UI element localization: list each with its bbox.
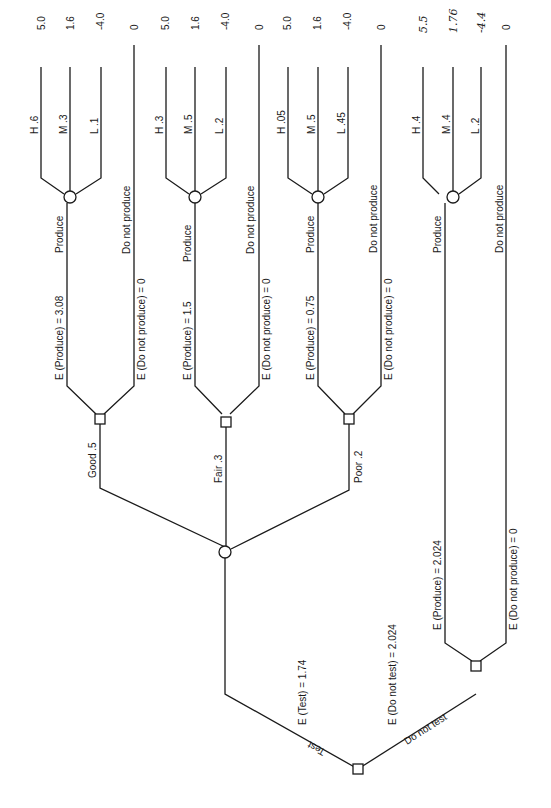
edge-good-produce xyxy=(67,203,96,414)
payoff-dnt-L: -4.4 xyxy=(475,12,488,33)
diagram-canvas: 5.0 1.6 -4.0 0 5.0 1.6 -4.0 0 5.0 1.6 -4… xyxy=(0,0,551,808)
poor-demand-chance-node xyxy=(312,191,324,203)
edges xyxy=(41,45,506,769)
edge-fair-produce xyxy=(195,203,222,414)
ev-dnt-produce: E (Produce) = 2.024 xyxy=(432,540,443,630)
ev-good-dont: E (Do not produce) = 0 xyxy=(136,278,147,380)
payoff-dnt-M: 1.76 xyxy=(447,9,460,34)
ev-dnt-dont: E (Do not produce) = 0 xyxy=(508,528,519,630)
label-dnt-dont: Do not produce xyxy=(494,184,505,253)
test-result-chance-node xyxy=(219,546,231,558)
edge-dnt-H xyxy=(423,67,439,194)
label-good-dont: Do not produce xyxy=(121,185,132,254)
good-decision-node xyxy=(95,414,105,424)
label-fair: Fair .3 xyxy=(213,454,224,483)
ev-poor-dont: E (Do not produce) = 0 xyxy=(383,278,394,380)
label-poor-dont: Do not produce xyxy=(368,184,379,253)
payoff-fair-L: -4.0 xyxy=(220,12,231,30)
outcome-dnt-L: L .2 xyxy=(470,117,481,134)
payoff-good-H: 5.0 xyxy=(36,16,47,30)
edge-poor-produce xyxy=(318,203,345,414)
outcome-good-H: H .6 xyxy=(29,115,40,134)
good-demand-chance-node xyxy=(64,191,76,203)
outcome-fair-H: H .3 xyxy=(154,115,165,134)
outcome-poor-L: L .45 xyxy=(336,112,347,134)
outcome-good-M: M .3 xyxy=(58,114,69,134)
outcome-fair-M: M .5 xyxy=(183,114,194,134)
label-dnt-produce: Produce xyxy=(432,215,443,253)
label-fair-produce: Produce xyxy=(182,224,193,262)
edge-poor xyxy=(231,424,349,549)
payoff-fair-M: 1.6 xyxy=(190,16,201,30)
label-poor: Poor .2 xyxy=(353,450,364,483)
payoff-fair-H: 5.0 xyxy=(160,16,171,30)
edge-good xyxy=(100,424,225,547)
label-do-not-test: Do not test xyxy=(402,711,449,747)
outcome-poor-H: H .05 xyxy=(276,110,287,134)
label-test: Test xyxy=(305,739,327,758)
edge-dnt-produce xyxy=(445,203,472,661)
ev-fair-dont: E (Do not produce) = 0 xyxy=(261,278,272,380)
payoff-poor-L: -4.0 xyxy=(342,12,353,30)
outcome-good-L: L .1 xyxy=(89,117,100,134)
ev-fair-produce: E (Produce) = 1.5 xyxy=(182,301,193,380)
ev-poor-produce: E (Produce) = 0.75 xyxy=(305,295,316,380)
ev-good-produce: E (Produce) = 3.08 xyxy=(54,295,65,380)
payoff-fair-dont: 0 xyxy=(254,24,265,30)
dnt-demand-chance-node xyxy=(447,191,459,203)
poor-decision-node xyxy=(344,414,354,424)
edge-test xyxy=(225,557,358,769)
payoff-good-dont: 0 xyxy=(129,24,140,30)
outcome-poor-M: M .5 xyxy=(306,114,317,134)
outcome-dnt-H: H .4 xyxy=(411,115,422,134)
root-decision-node xyxy=(353,764,363,774)
ev-test: E (Test) = 1.74 xyxy=(297,659,308,725)
payoff-dnt-dont: 0 xyxy=(501,24,512,30)
label-good: Good .5 xyxy=(87,442,98,478)
payoff-dnt-H: 5.5 xyxy=(417,16,430,34)
outcome-fair-L: L .2 xyxy=(214,117,225,134)
do-not-test-decision-node xyxy=(471,661,481,671)
ev-do-not-test: E (Do not test) = 2.024 xyxy=(387,624,398,725)
fair-demand-chance-node xyxy=(189,191,201,203)
decision-tree-diagram: 5.0 1.6 -4.0 0 5.0 1.6 -4.0 0 5.0 1.6 -4… xyxy=(0,0,551,808)
payoff-poor-H: 5.0 xyxy=(282,16,293,30)
label-good-produce: Produce xyxy=(54,215,65,253)
payoff-poor-M: 1.6 xyxy=(312,16,323,30)
nodes xyxy=(64,191,481,774)
outcome-dnt-M: M .4 xyxy=(441,114,452,134)
label-fair-dont: Do not produce xyxy=(245,185,256,254)
payoff-poor-dont: 0 xyxy=(376,24,387,30)
label-poor-produce: Produce xyxy=(305,215,316,253)
fair-decision-node xyxy=(221,417,231,427)
edge-dnt-dont xyxy=(480,45,506,661)
payoff-good-M: 1.6 xyxy=(65,16,76,30)
payoff-good-L: -4.0 xyxy=(95,12,106,30)
